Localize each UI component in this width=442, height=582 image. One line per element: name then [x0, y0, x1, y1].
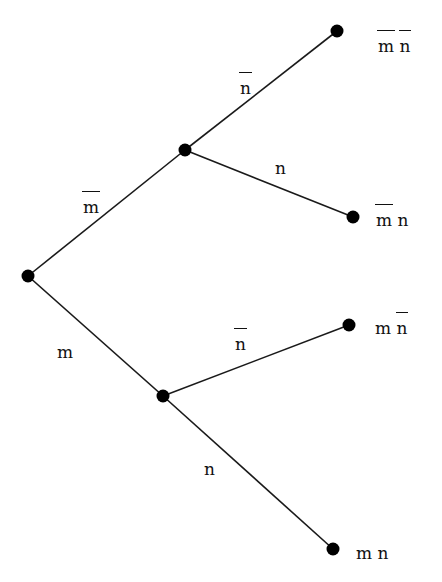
node-m: [157, 390, 170, 403]
leaf-label-m-not-n: m n: [375, 320, 407, 337]
edge-label-not-m: m: [83, 199, 99, 216]
leaf-label-not-m-n: m n: [376, 212, 408, 229]
edge-not-m-to-not-n: [185, 31, 337, 150]
edge-m-to-not-n: [163, 325, 349, 396]
node-leaf-m-not-n: [343, 319, 356, 332]
edge-root-to-m: [28, 276, 163, 396]
edge-label-not-n-lower: n: [235, 336, 246, 353]
edge-not-m-to-n: [185, 150, 353, 217]
node-leaf-not-m-not-n: [331, 25, 344, 38]
node-leaf-m-n: [327, 543, 340, 556]
leaf-label-not-m-not-n: m n: [378, 38, 410, 55]
edge-root-to-not-m: [28, 150, 185, 276]
leaf-label-m-n: m n: [356, 545, 388, 562]
probability-tree-diagram: [0, 0, 442, 582]
node-leaf-not-m-n: [347, 211, 360, 224]
edge-label-not-n-upper: n: [240, 80, 251, 97]
node-root: [22, 270, 35, 283]
edge-label-m: m: [57, 344, 73, 361]
node-not-m: [179, 144, 192, 157]
edge-m-to-n: [163, 396, 333, 549]
edge-label-n-lower: n: [204, 461, 215, 478]
edge-label-n-upper: n: [275, 160, 286, 177]
